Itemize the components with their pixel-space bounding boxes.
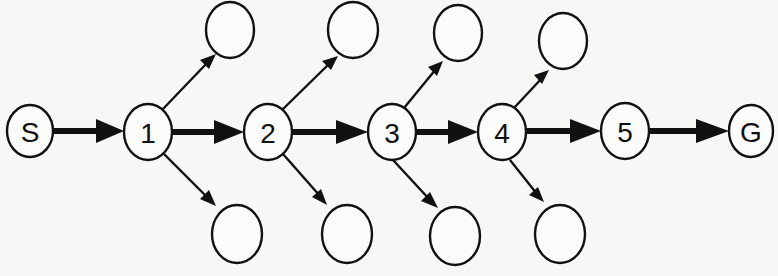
branch-node-top-3 xyxy=(434,5,482,61)
edge-4-5 xyxy=(526,119,601,143)
branch-node-bottom-2 xyxy=(322,205,372,263)
node-5-label: 5 xyxy=(617,117,633,148)
node-s: S xyxy=(7,105,53,157)
node-3-label: 3 xyxy=(384,118,400,149)
branch-node-bottom-1 xyxy=(212,205,262,263)
edge-5-g xyxy=(649,119,729,143)
node-s-label: S xyxy=(21,117,40,148)
node-4-label: 4 xyxy=(494,118,510,149)
edge-1-2 xyxy=(172,120,244,144)
branch-node-bottom-4 xyxy=(535,205,585,263)
node-g: G xyxy=(729,105,773,157)
node-2: 2 xyxy=(244,104,292,160)
branch-node-top-1 xyxy=(206,2,254,58)
node-1: 1 xyxy=(124,104,172,160)
node-4: 4 xyxy=(478,104,526,160)
node-3: 3 xyxy=(368,104,416,160)
node-5: 5 xyxy=(601,103,649,159)
node-2-label: 2 xyxy=(260,118,276,149)
node-1-label: 1 xyxy=(140,118,156,149)
branch-node-top-4 xyxy=(539,13,587,69)
node-g-label: G xyxy=(740,117,762,148)
edge-3-4 xyxy=(416,120,478,144)
branch-node-bottom-3 xyxy=(430,207,480,265)
edge-s-1 xyxy=(53,119,124,143)
edge-2-3 xyxy=(292,120,368,144)
search-path-diagram: S 1 2 3 4 5 G xyxy=(0,0,778,276)
branch-node-top-2 xyxy=(328,2,378,58)
